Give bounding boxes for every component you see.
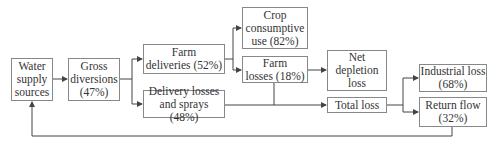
node-label: Farm losses (18%) (245, 57, 304, 83)
node-farm-losses: Farm losses (18%) (242, 56, 308, 83)
node-return-flow: Return flow (32%) (419, 97, 487, 127)
node-label: Total loss (335, 99, 379, 112)
node-label: Farm deliveries (52%) (146, 46, 222, 72)
node-label: Industrial loss (68%) (421, 65, 486, 91)
node-farm-deliveries: Farm deliveries (52%) (143, 44, 225, 74)
node-water-supply-sources: Water supply sources (11, 58, 53, 101)
node-label: Water supply sources (15, 60, 50, 99)
node-net-depletion-loss: Net depletion loss (327, 50, 387, 91)
node-delivery-losses: Delivery losses and sprays (48%) (143, 90, 225, 118)
node-crop-consumptive-use: Crop consumptive use (82%) (242, 7, 308, 49)
node-label: Gross diversions (47%) (70, 60, 117, 99)
node-label: Return flow (32%) (425, 99, 480, 125)
node-label: Net depletion loss (336, 51, 379, 90)
node-label: Crop consumptive use (82%) (246, 9, 305, 48)
node-label: Delivery losses and sprays (48%) (144, 85, 224, 124)
node-total-loss: Total loss (327, 97, 387, 113)
node-gross-diversions: Gross diversions (47%) (68, 58, 120, 101)
node-industrial-loss: Industrial loss (68%) (419, 64, 487, 92)
